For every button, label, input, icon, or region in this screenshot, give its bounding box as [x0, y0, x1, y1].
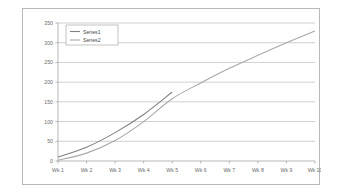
chart-legend: Series1Series2 — [66, 25, 118, 45]
line-chart: 050100150200250300350 Wk 1Wk 2Wk 3Wk 4Wk… — [23, 9, 321, 186]
x-axis-tick-labels: Wk 1Wk 2Wk 3Wk 4Wk 5Wk 6Wk 7Wk 8Wk 9Wk 1… — [52, 161, 321, 173]
y-axis-tick-label: 200 — [44, 79, 53, 85]
y-axis-tick-label: 50 — [47, 138, 53, 144]
y-axis-tick-label: 350 — [44, 20, 53, 26]
x-axis-tick-label: Wk 10 — [308, 167, 321, 173]
x-axis-tick-label: Wk 5 — [166, 167, 178, 173]
y-axis-tick-label: 100 — [44, 119, 53, 125]
y-axis-tick-label: 0 — [50, 158, 53, 164]
x-axis-tick-label: Wk 1 — [52, 167, 64, 173]
x-axis-tick-label: Wk 4 — [138, 167, 150, 173]
y-axis-tick-labels: 050100150200250300350 — [44, 20, 53, 164]
chart-frame: 050100150200250300350 Wk 1Wk 2Wk 3Wk 4Wk… — [22, 8, 320, 185]
x-axis-tick-label: Wk 2 — [81, 167, 93, 173]
y-axis-tick-label: 150 — [44, 99, 53, 105]
y-axis-tick-label: 300 — [44, 40, 53, 46]
x-axis-tick-label: Wk 6 — [195, 167, 207, 173]
legend-label-2: Series2 — [83, 37, 101, 43]
x-axis-tick-label: Wk 9 — [281, 167, 293, 173]
x-axis-tick-label: Wk 3 — [109, 167, 121, 173]
x-axis-tick-label: Wk 8 — [252, 167, 264, 173]
series-line-2 — [58, 31, 315, 160]
series-lines-group — [58, 31, 315, 160]
y-axis-tick-label: 250 — [44, 59, 53, 65]
legend-label-1: Series1 — [83, 29, 101, 35]
x-axis-tick-label: Wk 7 — [223, 167, 235, 173]
